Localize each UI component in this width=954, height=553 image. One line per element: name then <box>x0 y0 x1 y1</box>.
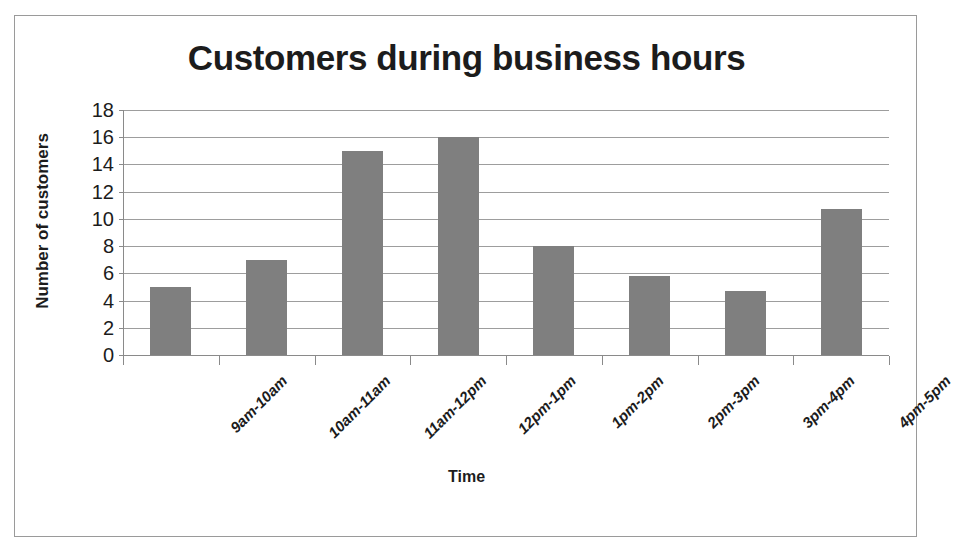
bar <box>342 151 383 355</box>
y-tick-mark <box>119 110 123 111</box>
y-tick-mark <box>119 192 123 193</box>
bar <box>246 260 287 355</box>
chart-frame: Customers during business hours Number o… <box>14 15 917 537</box>
gridline <box>123 219 889 220</box>
x-tick-mark <box>698 356 699 365</box>
bar <box>629 276 670 355</box>
x-tick-label: 12pm-1pm <box>514 372 579 437</box>
y-tick-label: 18 <box>92 99 114 122</box>
x-tick-label: 2pm-3pm <box>703 372 762 431</box>
x-tick-mark <box>123 356 124 365</box>
y-tick-label: 4 <box>103 289 114 312</box>
x-tick-mark <box>410 356 411 365</box>
y-tick-label: 12 <box>92 180 114 203</box>
x-tick-label: 9am-10am <box>226 372 290 436</box>
x-tick-mark <box>219 356 220 365</box>
y-tick-mark <box>119 219 123 220</box>
y-tick-mark <box>119 273 123 274</box>
y-tick-label: 16 <box>92 126 114 149</box>
y-tick-label: 8 <box>103 235 114 258</box>
x-tick-mark <box>889 356 890 365</box>
y-tick-label: 10 <box>92 207 114 230</box>
chart-title: Customers during business hours <box>15 38 918 78</box>
y-tick-mark <box>119 164 123 165</box>
y-tick-mark <box>119 137 123 138</box>
bar <box>725 291 766 355</box>
x-tick-label: 1pm-2pm <box>607 372 666 431</box>
bar <box>438 137 479 355</box>
gridline <box>123 273 889 274</box>
y-tick-mark <box>119 301 123 302</box>
x-tick-label: 10am-11am <box>324 372 393 441</box>
bar <box>821 209 862 355</box>
y-tick-label: 2 <box>103 316 114 339</box>
y-tick-label: 14 <box>92 153 114 176</box>
y-tick-label: 0 <box>103 344 114 367</box>
gridline <box>123 164 889 165</box>
bar <box>533 246 574 355</box>
x-tick-mark <box>506 356 507 365</box>
x-tick-mark <box>793 356 794 365</box>
x-tick-mark <box>602 356 603 365</box>
x-axis-title: Time <box>15 468 918 486</box>
y-tick-mark <box>119 246 123 247</box>
bar <box>150 287 191 355</box>
y-axis-title: Number of customers <box>33 131 53 311</box>
gridline <box>123 137 889 138</box>
gridline <box>123 301 889 302</box>
gridline <box>123 192 889 193</box>
x-tick-label: 3pm-4pm <box>799 372 858 431</box>
gridline <box>123 110 889 111</box>
y-tick-label: 6 <box>103 262 114 285</box>
y-axis-line <box>123 110 124 355</box>
gridline <box>123 246 889 247</box>
y-tick-mark <box>119 328 123 329</box>
x-tick-mark <box>315 356 316 365</box>
x-tick-label: 4pm-5pm <box>895 372 954 431</box>
plot-area: 024681012141618 9am-10am10am-11am11am-12… <box>123 110 889 355</box>
x-tick-label: 11am-12pm <box>420 372 490 442</box>
gridline <box>123 328 889 329</box>
